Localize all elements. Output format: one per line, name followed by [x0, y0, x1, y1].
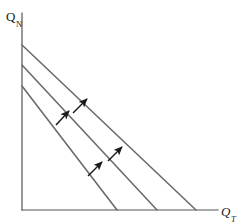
shift-arrow-4	[108, 147, 122, 161]
x-axis-label: QT	[221, 203, 235, 222]
constraint-line-1	[22, 86, 117, 210]
diagram-canvas	[0, 0, 242, 224]
axes-group	[22, 13, 218, 210]
constraint-line-2	[22, 65, 157, 210]
y-axis-label: QN	[6, 8, 22, 27]
y-axis-label-subscript: N	[16, 19, 22, 29]
shift-arrow-3	[88, 162, 102, 176]
constraint-lines-group	[22, 45, 196, 210]
x-axis-label-subscript: T	[231, 214, 236, 224]
x-axis-label-base: Q	[221, 204, 230, 219]
shift-arrow-1	[56, 111, 69, 125]
constraint-line-3	[22, 45, 196, 210]
y-axis-label-base: Q	[6, 9, 15, 24]
economics-shift-diagram: QN QT	[0, 0, 242, 224]
